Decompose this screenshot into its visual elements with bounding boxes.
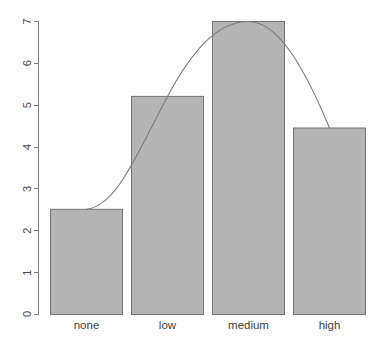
bar-medium[interactable] xyxy=(213,22,285,315)
y-tick-label-7: 7 xyxy=(21,18,33,24)
bar-none[interactable] xyxy=(51,209,123,314)
y-tick-label-3: 3 xyxy=(21,186,33,192)
y-tick-label-6: 6 xyxy=(21,60,33,66)
bar-low[interactable] xyxy=(132,96,204,314)
bar-high[interactable] xyxy=(294,128,366,315)
x-tick-label-low: low xyxy=(159,319,177,331)
x-tick-label-none: none xyxy=(74,319,100,331)
y-tick-label-4: 4 xyxy=(21,144,33,150)
y-tick-label-1: 1 xyxy=(21,270,33,276)
x-tick-label-medium: medium xyxy=(228,319,269,331)
x-tick-label-high: high xyxy=(319,319,341,331)
y-tick-label-5: 5 xyxy=(21,102,33,108)
chart-canvas: 0 1 2 3 4 5 6 7 none low medium high xyxy=(0,0,382,349)
y-tick-label-2: 2 xyxy=(21,228,33,234)
barplot-figure: 0 1 2 3 4 5 6 7 none low medium high xyxy=(0,0,382,349)
y-tick-label-0: 0 xyxy=(21,311,33,317)
